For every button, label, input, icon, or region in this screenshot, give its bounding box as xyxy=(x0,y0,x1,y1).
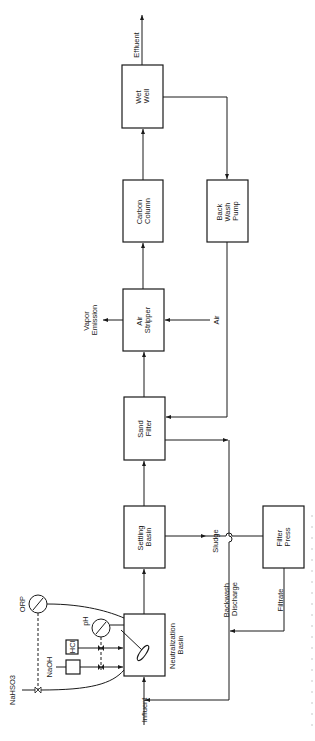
hcl-valve-icon xyxy=(98,645,104,651)
air-stripper-label-2: Stripper xyxy=(143,306,152,333)
orp-gauge-icon xyxy=(29,595,47,613)
settling-basin-label-2: Basin xyxy=(144,528,153,547)
back-wash-pump-label-3: Pump xyxy=(231,201,240,221)
carbon-column-label-2: Column xyxy=(143,198,152,224)
wet-well-unit: Wet Well xyxy=(122,65,163,128)
svg-text:Carbon Column: Carbon Column xyxy=(135,198,152,225)
process-flow-diagram: Wet Well Carbon Column Back Wash Pump Ai… xyxy=(0,0,315,741)
svg-text:Wet Well: Wet Well xyxy=(134,88,151,103)
back-wash-pump-unit: Back Wash Pump xyxy=(207,180,248,242)
orp-label: ORP xyxy=(18,596,27,612)
svg-text:Backwash Discharge: Backwash Discharge xyxy=(222,581,239,617)
svg-text:Sand Filter: Sand Filter xyxy=(136,418,153,438)
sand-filter-unit: Sand Filter xyxy=(124,397,165,460)
svg-text:Neutralization Basin: Neutralization Basin xyxy=(168,621,185,669)
ph-label: pH xyxy=(81,616,90,626)
ph-gauge-icon xyxy=(92,619,110,637)
vapor-emission-label-2: Emission xyxy=(90,305,99,335)
backwash-discharge-label-2: Discharge xyxy=(230,582,239,616)
hcl-label: HCl xyxy=(68,640,77,653)
stream-labels: Effluent Vapor Emission Air Sludge Backw… xyxy=(82,31,285,722)
sand-filter-label-2: Filter xyxy=(144,419,153,436)
naoh-tank xyxy=(66,660,80,674)
filter-press-label-2: Press xyxy=(283,527,292,546)
nahso3-label: NaHSO3 xyxy=(8,675,17,705)
sludge-label: Sludge xyxy=(211,529,220,552)
svg-text:Back Wash Pump: Back Wash Pump xyxy=(215,201,240,222)
neutralization-basin-label-2: Basin xyxy=(176,636,185,655)
air-stripper-unit: Air Stripper xyxy=(123,289,164,351)
air-label: Air xyxy=(212,315,221,325)
instrumentation: ORP pH HCl NaOH NaHSO3 xyxy=(8,595,124,705)
naoh-label: NaOH xyxy=(45,657,54,678)
effluent-label: Effluent xyxy=(132,31,141,57)
neutralization-basin-unit: Neutralization Basin xyxy=(121,614,185,676)
settling-basin-unit: Settling Basin xyxy=(124,506,165,568)
svg-text:Filter Press: Filter Press xyxy=(275,527,292,546)
svg-text:Vapor Emission: Vapor Emission xyxy=(82,305,99,335)
wet-well-label-2: Well xyxy=(142,88,151,103)
nahso3-valve-icon xyxy=(35,687,41,693)
influent-label: Influent xyxy=(140,697,149,723)
filter-press-unit: Filter Press xyxy=(263,506,304,568)
carbon-column-unit: Carbon Column xyxy=(123,180,163,242)
filtrate-label: Filtrate xyxy=(276,589,285,612)
